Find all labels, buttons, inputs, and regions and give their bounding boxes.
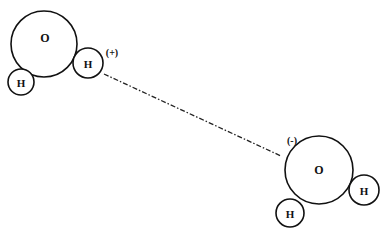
water-molecule-2: O H H (-) [276,135,379,228]
hydrogen-bond-line [104,74,281,156]
oxygen-label-1: O [40,31,49,45]
water-molecule-1: O H H (+) [8,11,118,95]
hydrogen-label-2a: H [286,208,295,220]
hydrogen-bond-diagram: O H H (+) O H H (-) [0,0,385,235]
hydrogen-label-2b: H [360,185,369,197]
hydrogen-label-1a: H [17,77,26,89]
oxygen-label-2: O [314,163,323,177]
hydrogen-label-1b: H [84,58,93,70]
partial-charge-negative: (-) [287,135,297,147]
partial-charge-positive: (+) [106,47,118,59]
